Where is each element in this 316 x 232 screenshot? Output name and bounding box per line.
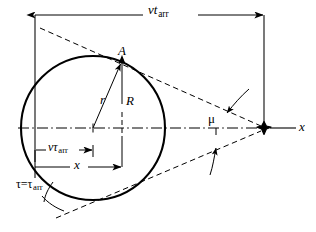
star-marker	[257, 122, 271, 135]
label-radius-R: R	[126, 94, 134, 107]
point-a-marker	[120, 59, 124, 63]
diagram-canvas	[0, 0, 316, 232]
radius-r-line	[93, 64, 121, 128]
label-v-tau-arr: vτarr	[48, 141, 68, 155]
tau-subscript: arr	[32, 182, 42, 192]
label-radius-r: r	[100, 93, 105, 106]
vt-arr-subscript: arr	[157, 9, 168, 19]
tau-leader-line	[42, 182, 64, 211]
mu-upper-arrow	[227, 89, 249, 113]
v-tau-arr-symbol: vτ	[48, 140, 58, 154]
label-x-axis: x	[299, 120, 305, 133]
label-point-a: A	[118, 44, 126, 57]
figure-container: vtarr A r R vτarr x τ=τarr μ x	[0, 0, 316, 232]
lower-tangent-line	[56, 131, 261, 218]
v-tau-arr-subscript: arr	[58, 145, 68, 155]
label-vt-arr: vtarr	[148, 3, 169, 19]
vt-arr-symbol: vt	[148, 2, 157, 17]
tau-symbol: τ=τ	[16, 177, 32, 191]
label-mu: μ	[208, 112, 215, 125]
label-x-dimension: x	[74, 158, 80, 171]
label-tau-equals-tau-arr: τ=τarr	[16, 178, 43, 192]
